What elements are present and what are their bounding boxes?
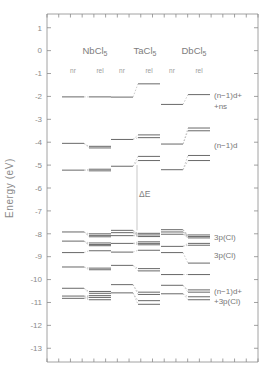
subcolumn-label-nr-1: nr	[119, 67, 126, 74]
y-tick-label: -5	[35, 161, 43, 170]
delta-e-label: ΔE	[139, 189, 151, 199]
subcolumn-label-nr-2: nr	[169, 67, 176, 74]
y-tick-label: -12	[30, 321, 42, 330]
label-nd-3p-line1: (n−1)d+	[214, 287, 242, 296]
y-tick-label: -6	[35, 184, 43, 193]
label-nd: (n−1)d	[214, 141, 237, 150]
y-tick-label: -2	[35, 92, 43, 101]
column-title-subscript-2: 5	[203, 50, 207, 57]
y-axis-title: Energy (eV)	[4, 158, 15, 218]
y-tick-label: -8	[35, 230, 43, 239]
y-tick-label: -4	[35, 138, 43, 147]
y-tick-label: -11	[31, 298, 43, 307]
column-title-subscript-0: 5	[104, 50, 108, 57]
subcolumn-label-rel-2: rel	[195, 67, 203, 74]
y-tick-label: 0	[38, 46, 43, 55]
energy-level-diagram: 10-1-2-3-4-5-6-7-8-9-10-11-12-13Energy (…	[0, 0, 275, 374]
y-tick-label: -7	[35, 207, 43, 216]
subcolumn-label-nr-0: nr	[70, 67, 77, 74]
label-3p-cl-lower: 3p(Cl)	[214, 251, 236, 260]
label-nd-ns-line1: (n−1)d+	[214, 91, 242, 100]
y-tick-label: -1	[35, 69, 43, 78]
y-tick-label: -13	[30, 344, 42, 353]
y-tick-label: -3	[35, 115, 43, 124]
subcolumn-label-rel-1: rel	[145, 67, 153, 74]
y-tick-label: -9	[35, 252, 43, 261]
column-title-subscript-1: 5	[153, 50, 157, 57]
label-3p-cl-upper: 3p(Cl)	[214, 233, 236, 242]
y-tick-label: -10	[30, 275, 42, 284]
label-nd-ns-line2: +ns	[214, 102, 227, 111]
y-tick-label: 1	[38, 24, 43, 33]
label-nd-3p-line2: +3p(Cl)	[214, 297, 241, 306]
subcolumn-label-rel-0: rel	[96, 67, 104, 74]
